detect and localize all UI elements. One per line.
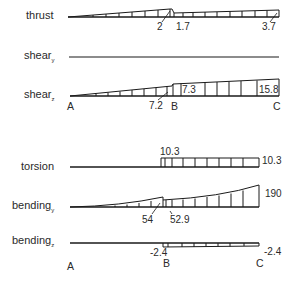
thrust-value-at-c: 3.7: [262, 21, 276, 32]
row-thrust: thrust 2 1.7 3.7: [26, 9, 279, 32]
point-label-c: C: [273, 100, 281, 112]
point-label-c-bottom: C: [256, 257, 264, 269]
row-shear-y: sheary: [24, 49, 279, 63]
row-bending-z: bendingz -2.4 -2.4: [12, 234, 282, 258]
thrust-value-before-b: 2: [157, 21, 163, 32]
point-label-a: A: [67, 100, 74, 112]
bending-z-value-at-c: -2.4: [264, 246, 282, 257]
row-label-bending-y: bendingy: [12, 199, 54, 213]
row-label-thrust: thrust: [26, 9, 54, 21]
thrust-value-after-b: 1.7: [176, 21, 190, 32]
row-label-bending-z: bendingz: [12, 234, 54, 248]
row-label-torsion: torsion: [21, 160, 54, 172]
row-label-shear-z: shearz: [24, 88, 55, 102]
row-label-shear-y: sheary: [24, 49, 55, 63]
row-shear-z: shearz 7.3 15.8 7.2: [24, 79, 279, 111]
bending-y-value-after-b: 52.9: [170, 214, 190, 225]
shear-z-value-after-b: 7.3: [182, 84, 196, 95]
shear-z-value-at-c: 15.8: [259, 84, 279, 95]
point-label-b-bottom: B: [163, 257, 170, 269]
torsion-value-after-b: 10.3: [160, 146, 180, 157]
point-label-a-bottom: A: [67, 260, 74, 272]
row-bending-y: bendingy 190 54 52.9: [12, 185, 282, 225]
shear-z-value-before-b: 7.2: [149, 100, 163, 111]
bending-y-value-before-b: 54: [142, 214, 154, 225]
force-diagram: thrust 2 1.7 3.7 sheary: [0, 0, 297, 290]
point-label-b: B: [171, 100, 178, 112]
row-torsion: torsion 10.3 10.3: [21, 146, 282, 172]
bending-y-value-at-c: 190: [265, 188, 282, 199]
torsion-value-at-c: 10.3: [262, 155, 282, 166]
